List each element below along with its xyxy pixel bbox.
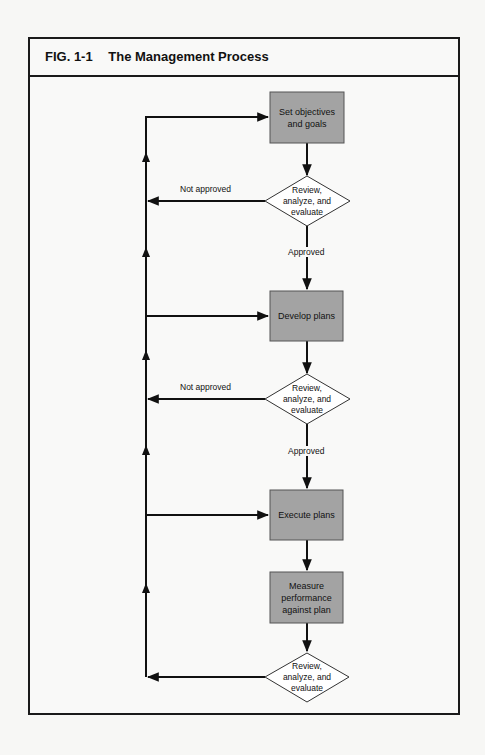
node-set-objectives-label: Set objectives and goals xyxy=(272,94,342,141)
node-review-3-label: Review, analyze, and evaluate xyxy=(282,660,332,694)
edge-label-not-approved-1: Not approved xyxy=(180,184,231,194)
node-review-2-label: Review, analyze, and evaluate xyxy=(282,382,332,416)
edge-label-not-approved-2: Not approved xyxy=(180,382,231,392)
node-measure-performance-label: Measure performance against plan xyxy=(274,574,339,621)
edge-label-approved-2: Approved xyxy=(287,446,325,456)
node-review-1-label: Review, analyze, and evaluate xyxy=(282,184,332,218)
flowchart xyxy=(0,0,485,755)
edge-label-approved-1: Approved xyxy=(287,247,325,257)
node-execute-plans-label: Execute plans xyxy=(272,492,341,538)
node-develop-plans-label: Develop plans xyxy=(272,293,341,339)
